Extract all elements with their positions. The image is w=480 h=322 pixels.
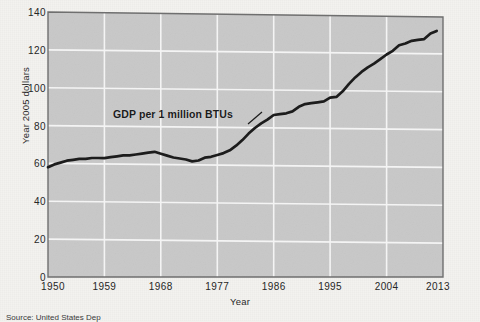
- source-note: Source: United States Dep: [6, 313, 101, 322]
- x-tick-label: 1977: [205, 281, 229, 292]
- y-tick-label: 40: [4, 196, 46, 207]
- x-axis-title: Year: [0, 296, 480, 307]
- x-tick-label: 1968: [149, 281, 173, 292]
- y-tick-label: 140: [4, 7, 46, 18]
- x-tick-label: 2004: [375, 281, 399, 292]
- y-tick-label: 100: [4, 82, 46, 93]
- y-axis-ticks: 0 20 40 60 80 100 120 140: [0, 0, 46, 321]
- x-tick-label: 2013: [426, 281, 450, 292]
- x-tick-label: 1986: [262, 281, 286, 292]
- y-tick-label: 120: [4, 44, 46, 55]
- x-tick-label: 1950: [41, 281, 65, 292]
- y-tick-label: 20: [4, 234, 46, 245]
- y-tick-label: 60: [4, 158, 46, 169]
- y-tick-label: 0: [4, 272, 46, 283]
- chart-annotation-label: GDP per 1 million BTUs: [113, 108, 233, 120]
- y-tick-label: 80: [4, 120, 46, 131]
- x-tick-label: 1995: [318, 281, 342, 292]
- x-tick-label: 1959: [92, 281, 116, 292]
